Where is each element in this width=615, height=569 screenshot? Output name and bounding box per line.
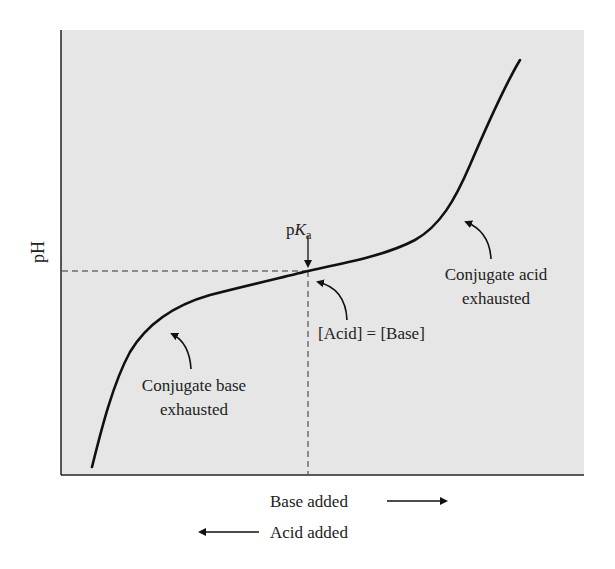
titration-chart: pH pKa [Acid] = [Base] Conjugate base ex… <box>0 0 615 569</box>
x-axis-label-base-added: Base added <box>270 492 348 511</box>
plot-area <box>61 30 584 474</box>
base-exhausted-label-line2: exhausted <box>160 400 228 419</box>
pka-subscript: a <box>306 227 312 242</box>
acid-exhausted-label-line2: exhausted <box>462 289 530 308</box>
base-exhausted-label-line1: Conjugate base <box>142 376 246 395</box>
acid-exhausted-label-line1: Conjugate acid <box>445 265 548 284</box>
x-axis-label-acid-added: Acid added <box>270 523 348 542</box>
midpoint-label: [Acid] = [Base] <box>318 324 425 343</box>
y-axis-label: pH <box>28 241 48 263</box>
pka-p: p <box>286 220 295 239</box>
